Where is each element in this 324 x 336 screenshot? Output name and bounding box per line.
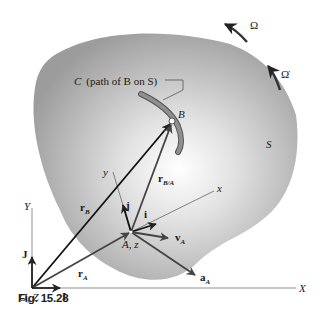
x-axis-label: x bbox=[216, 182, 222, 194]
body-S-label: S bbox=[266, 138, 272, 150]
y-axis-label: y bbox=[102, 166, 108, 178]
unit-i-label: i bbox=[144, 208, 147, 220]
point-A bbox=[130, 231, 133, 234]
a-A-label: aA bbox=[200, 271, 211, 286]
point-B-label: B bbox=[178, 108, 185, 120]
omega-arrow-icon bbox=[225, 24, 247, 42]
figure-caption: Fig. 15.28 bbox=[18, 292, 68, 304]
unit-j-label: j bbox=[125, 199, 130, 211]
rigid-body-S bbox=[33, 34, 297, 280]
X-axis-label: X bbox=[298, 282, 307, 294]
omega-dot-label: Ω̇ bbox=[281, 68, 290, 80]
kinematics-diagram: Ω Ω̇ C(path of B on S) B S x y X Y A, z … bbox=[0, 0, 324, 336]
r-A-label: rA bbox=[78, 267, 88, 282]
point-A-label: A, z bbox=[121, 238, 139, 250]
omega-label: Ω bbox=[250, 19, 258, 31]
curve-C-label: C(path of B on S) bbox=[74, 75, 158, 88]
unit-J-label: J bbox=[22, 248, 28, 260]
Y-axis-label: Y bbox=[24, 200, 32, 212]
point-B bbox=[169, 118, 175, 124]
